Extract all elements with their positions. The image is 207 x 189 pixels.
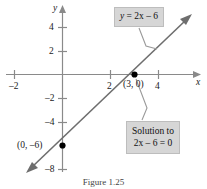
- x-tick-label-4: 4: [155, 82, 160, 92]
- equation-callout-rhs: = 2x – 6: [124, 11, 158, 21]
- y-tick-label-4: 4: [49, 23, 54, 33]
- y-tick-label--4: –4: [45, 118, 55, 128]
- x-tick-label--2: –2: [9, 82, 19, 92]
- solution-callout-line1: Solution to: [132, 125, 174, 137]
- figure-caption: Figure 1.25: [0, 178, 207, 188]
- equation-leader-line: [139, 28, 157, 49]
- figure-container: y x –2 2 4 4 2 –2 –4 –8 (3, 0) (0, –6) y…: [0, 0, 207, 189]
- point-marker-x-intercept: [131, 71, 137, 77]
- x-axis: [6, 71, 201, 78]
- solution-callout-line2: 2x – 6 = 0: [132, 137, 174, 149]
- x-tick-label-2: 2: [107, 82, 112, 92]
- point-marker-y-intercept: [59, 142, 65, 148]
- point-label-x-intercept: (3, 0): [123, 80, 144, 90]
- y-tick-label-2: 2: [49, 47, 54, 57]
- y-tick-label--8: –8: [45, 165, 55, 175]
- coordinate-plot: [0, 0, 207, 189]
- solution-callout-box: Solution to 2x – 6 = 0: [126, 121, 180, 154]
- y-axis-label: y: [53, 4, 57, 14]
- x-axis-label: x: [196, 78, 200, 88]
- point-label-y-intercept: (0, –6): [17, 141, 42, 151]
- y-tick-label--2: –2: [45, 94, 55, 104]
- equation-callout-box: y = 2x – 6: [114, 7, 164, 27]
